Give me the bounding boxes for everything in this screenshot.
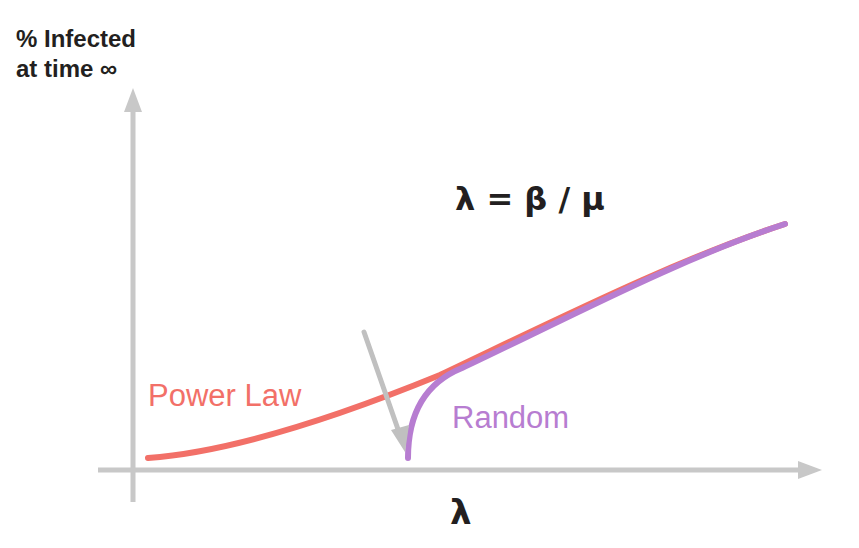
y-axis-label: % Infected at time ∞ [16,24,136,84]
formula-label: λ = β / μ [455,180,605,218]
y-axis-label-line1: % Infected [16,24,136,54]
x-axis-label: λ [450,492,472,532]
y-axis [124,88,142,502]
random-label: Random [452,400,569,436]
y-axis-label-line2: at time ∞ [16,54,136,84]
x-axis [98,461,822,479]
power-law-label: Power Law [148,378,301,414]
